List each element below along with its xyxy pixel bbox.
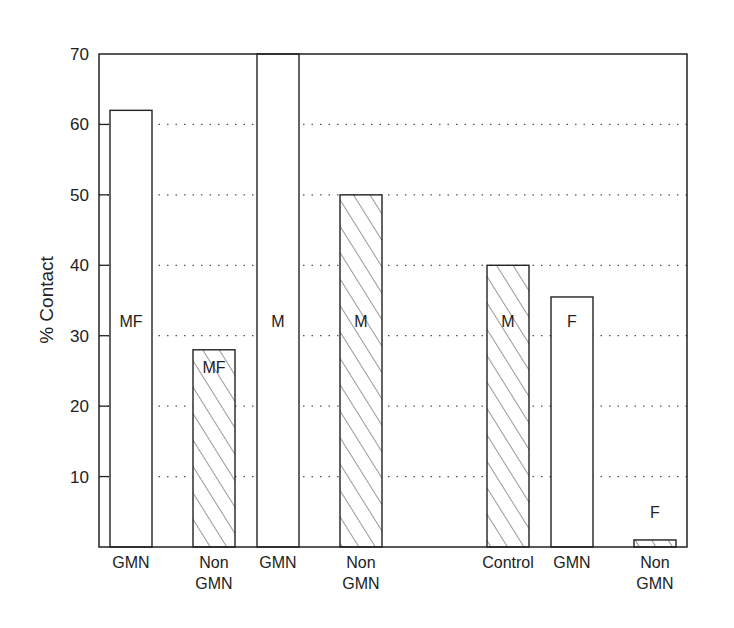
y-tick-label: 30 <box>70 327 89 346</box>
bar: M <box>257 54 299 547</box>
x-axis: GMNNonGMNGMNNonGMNControlGMNNonGMN <box>112 554 673 592</box>
bars: MFMFMMMFF <box>110 54 676 547</box>
bar-label: M <box>501 313 514 330</box>
bar: F <box>634 504 676 547</box>
x-tick-label: GMN <box>259 554 296 571</box>
x-tick-label: Non <box>346 554 375 571</box>
x-tick-label: Non <box>199 554 228 571</box>
y-axis: 10203040506070 <box>70 45 109 487</box>
bar-chart: MFMFMMMFF 10203040506070 GMNNonGMNGMNNon… <box>0 0 734 628</box>
x-tick-label: GMN <box>112 554 149 571</box>
x-tick-label: GMN <box>553 554 590 571</box>
bar: MF <box>193 350 235 547</box>
x-tick-label: Control <box>482 554 534 571</box>
bar-label: F <box>567 313 577 330</box>
bar: M <box>487 265 529 547</box>
bar-label: MF <box>119 313 142 330</box>
y-tick-label: 10 <box>70 468 89 487</box>
bar-label: M <box>271 313 284 330</box>
y-tick-label: 40 <box>70 256 89 275</box>
y-tick-label: 60 <box>70 115 89 134</box>
bar-label: MF <box>202 359 225 376</box>
y-tick-label: 70 <box>70 45 89 64</box>
x-tick-label-line2: GMN <box>636 575 673 592</box>
bar-label: F <box>650 504 660 521</box>
y-tick-label: 20 <box>70 397 89 416</box>
gridlines <box>99 124 687 476</box>
x-tick-label-line2: GMN <box>195 575 232 592</box>
y-axis-label: % Contact <box>36 255 57 343</box>
x-tick-label: Non <box>640 554 669 571</box>
bar: M <box>340 195 382 547</box>
y-tick-label: 50 <box>70 186 89 205</box>
plot-frame <box>99 54 687 547</box>
x-tick-label-line2: GMN <box>342 575 379 592</box>
bar-label: M <box>354 313 367 330</box>
bar: MF <box>110 110 152 547</box>
bar: F <box>551 297 593 547</box>
